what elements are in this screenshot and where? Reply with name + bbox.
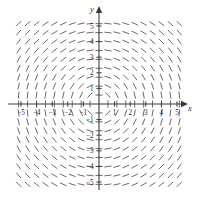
slope-segment [52,57,57,62]
slope-segment [60,40,66,44]
slope-segment [141,65,146,71]
slope-segment [159,146,163,152]
slope-segment [16,21,21,26]
slope-segment [114,129,120,133]
y-tick-label: 2 [90,69,94,77]
slope-segment [104,157,111,158]
x-tick-label: 2 [128,109,132,117]
slope-segment [53,128,57,134]
slope-segment [178,136,181,143]
slope-segment [122,183,129,185]
slope-segment [17,56,21,62]
slope-segment [168,182,173,187]
slope-segment [169,136,172,142]
axis-tick-labels-group: −5−4−3−2−112345−5−4−3−2−112345 [17,23,179,187]
slope-segment [16,182,21,187]
slope-segment [35,74,38,81]
slope-segment [142,74,146,80]
slope-segment [78,175,85,177]
slope-segment [69,31,76,34]
slope-segment [132,146,138,151]
slope-segment [178,74,180,81]
slope-segment [150,48,155,53]
slope-segment [70,119,74,125]
slope-segment [43,164,48,169]
slope-segment [60,48,66,52]
slope-segment [43,48,48,53]
slope-segment [104,139,111,141]
slope-segment [161,92,162,99]
slope-segment [151,128,154,134]
slope-segment [143,92,144,99]
slope-segment [104,67,111,69]
slope-segment [78,129,84,133]
slope-segment [132,165,138,169]
slope-segment [132,137,137,142]
slope-segment [36,92,37,99]
slope-segment [42,182,48,186]
slope-segment [17,155,21,161]
slope-segment [16,164,20,170]
slope-segment [42,22,48,26]
slope-segment [150,146,155,152]
slope-segment [114,147,121,150]
slope-segment [177,182,182,187]
slope-segment [105,130,112,132]
slope-segment [105,120,111,123]
slope-segment [179,92,180,99]
slope-segment [170,118,172,125]
slope-segment [78,49,85,51]
slope-segment [177,155,181,161]
slope-segment [34,56,38,62]
slope-segment [69,66,75,70]
slope-segment [78,147,85,150]
slope-segment [34,173,39,178]
slope-segment [141,39,147,43]
slope-segment [26,146,30,152]
y-tick-label: −2 [86,132,94,140]
slope-segment [17,145,21,151]
slope-segment [69,147,75,151]
slope-segment [122,40,129,43]
slope-segment [78,41,85,43]
slope-segment [168,155,172,161]
slope-segment [141,137,146,143]
slope-segment [27,83,29,90]
slope-segment [169,146,173,152]
slope-segment [69,156,75,159]
slope-segment [178,127,180,134]
slope-segment [52,137,57,143]
slope-segment [16,173,21,178]
slope-segment [43,137,47,143]
slope-segment [52,48,58,53]
slope-segment [53,83,56,90]
slope-segment [150,164,155,169]
slope-segment [60,31,66,34]
slope-segment [123,75,128,80]
y-axis-label: y [89,5,94,14]
slope-segment [87,50,94,51]
slope-segment [35,127,38,134]
slope-segment [141,174,147,178]
slope-segment [51,22,57,26]
slope-segment [45,109,46,116]
slope-segment [104,50,111,51]
slope-segment [43,30,49,34]
slope-segment [34,164,39,169]
slope-segment [70,75,75,80]
slope-segment [45,92,46,99]
slope-segment [114,119,119,124]
slope-segment [177,21,182,26]
slope-segment [44,128,47,134]
slope-segment [69,58,75,62]
slope-segment [78,138,84,141]
slope-segment [88,93,93,98]
slope-segment [159,155,164,160]
slope-segment [168,39,173,44]
slope-segment [168,173,173,178]
slope-segment [123,156,129,159]
slope-segment [52,155,58,160]
slope-field-plot: −5−4−3−2−112345−5−4−3−2−112345 x y [0,0,198,198]
slope-segment [43,155,48,160]
slope-segment [140,22,146,26]
